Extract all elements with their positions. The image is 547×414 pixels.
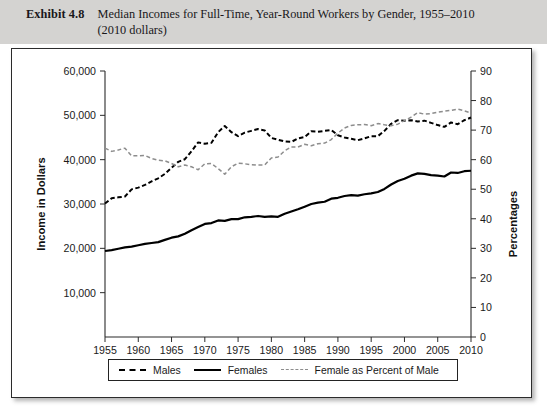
x-tick-label: 1970	[193, 344, 217, 356]
x-tick-label: 1955	[93, 344, 117, 356]
right-tick-label: 50	[480, 183, 492, 195]
legend-swatch-dashed-icon	[119, 365, 146, 375]
series-layer	[105, 109, 471, 251]
right-tick-label: 70	[480, 124, 492, 136]
x-tick-label: 1995	[359, 344, 383, 356]
x-tick-label: 2000	[393, 344, 417, 356]
x-tick-label: 2010	[459, 344, 483, 356]
right-tick-label: 10	[480, 301, 492, 313]
right-tick-label: 80	[480, 95, 492, 107]
x-tick-label: 1980	[260, 344, 284, 356]
legend-label-females: Females	[228, 365, 268, 376]
right-tick-label: 20	[480, 272, 492, 284]
x-tick-label: 1975	[226, 344, 250, 356]
exhibit-title-line-1: Median Incomes for Full-Time, Year-Round…	[98, 7, 475, 21]
right-tick-label: 40	[480, 213, 492, 225]
left-axis-ticks: 10,00020,00030,00040,00050,00060,000	[64, 65, 105, 299]
x-tick-label: 1985	[293, 344, 317, 356]
legend-swatch-solid-icon	[194, 365, 221, 375]
left-tick-label: 10,000	[64, 287, 97, 299]
exhibit-title-line-2: (2010 dollars)	[98, 23, 475, 39]
legend-item-ratio: Female as Percent of Male	[281, 365, 439, 376]
x-tick-label: 1990	[326, 344, 350, 356]
left-tick-label: 40,000	[64, 154, 97, 166]
right-tick-label: 90	[480, 65, 492, 77]
line-chart-svg: 10,00020,00030,00040,00050,00060,000 010…	[12, 49, 533, 399]
y-axis-title: Income in Dollars	[35, 157, 47, 250]
x-tick-label: 1960	[126, 344, 150, 356]
exhibit-number-label: Exhibit 4.8	[26, 7, 85, 23]
x-tick-label: 1965	[160, 344, 184, 356]
left-tick-label: 30,000	[64, 198, 97, 210]
right-tick-label: 0	[480, 331, 486, 343]
left-tick-label: 60,000	[64, 65, 97, 77]
legend-item-males: Males	[119, 365, 181, 376]
exhibit-header-text: Exhibit 4.8 Median Incomes for Full-Time…	[26, 7, 529, 38]
left-tick-label: 50,000	[64, 109, 97, 121]
series-line-females	[105, 171, 471, 251]
legend-item-females: Females	[194, 365, 268, 376]
legend-swatch-light-dashed-icon	[281, 365, 308, 375]
plot-area-wrapper: 10,00020,00030,00040,00050,00060,000 010…	[12, 49, 533, 399]
legend-label-ratio: Female as Percent of Male	[315, 365, 439, 376]
chart-legend: Males Females Female as Percent of Male	[108, 359, 458, 381]
x-axis-ticks: 1955196019651970197519801985199019952000…	[93, 337, 483, 356]
exhibit-figure: Exhibit 4.8 Median Incomes for Full-Time…	[0, 0, 547, 414]
legend-label-males: Males	[153, 365, 181, 376]
exhibit-header-band: Exhibit 4.8 Median Incomes for Full-Time…	[0, 0, 547, 44]
right-tick-label: 30	[480, 242, 492, 254]
right-axis-ticks: 0102030405060708090	[471, 65, 492, 343]
x-tick-label: 2005	[426, 344, 450, 356]
y2-axis-title: Percentages	[507, 191, 519, 258]
left-tick-label: 20,000	[64, 242, 97, 254]
exhibit-title: Median Incomes for Full-Time, Year-Round…	[98, 7, 475, 38]
right-tick-label: 60	[480, 154, 492, 166]
chart-panel: 10,00020,00030,00040,00050,00060,000 010…	[11, 48, 532, 398]
